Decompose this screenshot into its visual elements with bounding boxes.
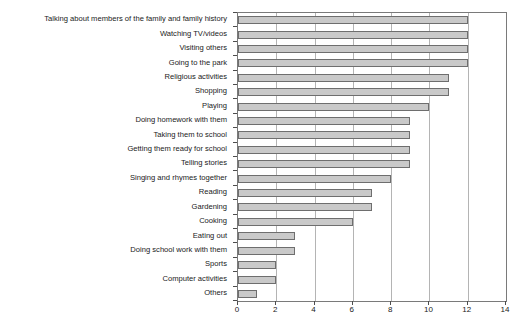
bar-row xyxy=(238,13,506,27)
y-axis-tick xyxy=(233,156,237,157)
bar xyxy=(238,117,410,125)
category-label: Eating out xyxy=(0,228,232,242)
bar xyxy=(238,261,276,269)
x-axis-tick-label: 4 xyxy=(311,306,315,314)
bar-series xyxy=(238,13,506,301)
category-label: Gardening xyxy=(0,199,232,213)
y-axis-tick xyxy=(233,242,237,243)
x-axis-tick-label: 14 xyxy=(501,306,510,314)
category-label: Going to the park xyxy=(0,55,232,69)
bar-row xyxy=(238,143,506,157)
bar xyxy=(238,160,410,168)
bar xyxy=(238,103,429,111)
category-label: Others xyxy=(0,286,232,300)
category-label: Religious activities xyxy=(0,70,232,84)
y-axis-tick xyxy=(233,84,237,85)
bar xyxy=(238,131,410,139)
bar xyxy=(238,45,468,53)
bar-row xyxy=(238,71,506,85)
y-axis-tick xyxy=(233,127,237,128)
y-axis-tick xyxy=(233,98,237,99)
category-label: Doing homework with them xyxy=(0,113,232,127)
x-axis-tick-label: 6 xyxy=(350,306,354,314)
bar-row xyxy=(238,171,506,185)
bar xyxy=(238,146,410,154)
y-axis-tick xyxy=(233,257,237,258)
x-axis-tick-label: 12 xyxy=(462,306,471,314)
bar-row xyxy=(238,56,506,70)
bar-row xyxy=(238,27,506,41)
bar xyxy=(238,189,372,197)
bar-row xyxy=(238,258,506,272)
bar-row xyxy=(238,244,506,258)
bar xyxy=(238,175,391,183)
category-label: Shopping xyxy=(0,84,232,98)
category-label: Cooking xyxy=(0,214,232,228)
y-axis-tick xyxy=(233,55,237,56)
category-label: Watching TV/videos xyxy=(0,26,232,40)
category-label: Getting them ready for school xyxy=(0,142,232,156)
x-axis-tick-label: 8 xyxy=(388,306,392,314)
x-axis-tick-label: 10 xyxy=(424,306,433,314)
category-label: Reading xyxy=(0,185,232,199)
category-label: Talking about members of the family and … xyxy=(0,12,232,26)
category-label: Taking them to school xyxy=(0,127,232,141)
category-label: Telling stories xyxy=(0,156,232,170)
y-axis-tick xyxy=(233,185,237,186)
category-label: Visiting others xyxy=(0,41,232,55)
category-label: Playing xyxy=(0,98,232,112)
bar-row xyxy=(238,157,506,171)
category-label: Computer activities xyxy=(0,271,232,285)
y-axis-tick xyxy=(233,228,237,229)
x-axis-tick-labels: 02468101214 xyxy=(237,306,507,320)
bar xyxy=(238,88,449,96)
bar-chart: Talking about members of the family and … xyxy=(0,0,519,330)
bar-row xyxy=(238,215,506,229)
y-axis-tick xyxy=(233,199,237,200)
category-label: Sports xyxy=(0,257,232,271)
category-label: Singing and rhymes together xyxy=(0,170,232,184)
bar xyxy=(238,31,468,39)
plot-area xyxy=(237,12,507,302)
bar-row xyxy=(238,85,506,99)
bar-row xyxy=(238,287,506,301)
category-label-column: Talking about members of the family and … xyxy=(0,12,232,300)
x-axis-tick-label: 2 xyxy=(273,306,277,314)
bar-row xyxy=(238,186,506,200)
bar-row xyxy=(238,128,506,142)
y-axis-tick xyxy=(233,113,237,114)
bar xyxy=(238,59,468,67)
bar-row xyxy=(238,272,506,286)
bar xyxy=(238,290,257,298)
y-axis-tick xyxy=(233,26,237,27)
bar xyxy=(238,276,276,284)
y-axis-tick xyxy=(233,170,237,171)
x-axis-tick-label: 0 xyxy=(235,306,239,314)
bar-row xyxy=(238,42,506,56)
bar xyxy=(238,74,449,82)
bar xyxy=(238,247,295,255)
bar-row xyxy=(238,114,506,128)
bar xyxy=(238,203,372,211)
bar xyxy=(238,16,468,24)
y-axis-tick xyxy=(233,41,237,42)
bar xyxy=(238,218,353,226)
y-axis-tick xyxy=(233,286,237,287)
y-axis-tick xyxy=(233,214,237,215)
bar-row xyxy=(238,229,506,243)
y-axis-tick xyxy=(233,70,237,71)
bar-row xyxy=(238,200,506,214)
category-label: Doing school work with them xyxy=(0,243,232,257)
bar xyxy=(238,232,295,240)
y-axis-tick xyxy=(233,142,237,143)
bar-row xyxy=(238,99,506,113)
y-axis-tick xyxy=(233,271,237,272)
y-axis-tick xyxy=(233,12,237,13)
